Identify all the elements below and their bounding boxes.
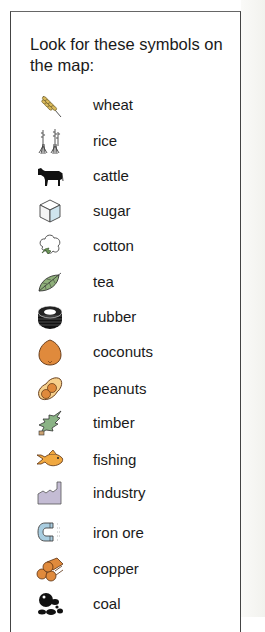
- fish-icon: [35, 445, 65, 475]
- cattle-icon: [35, 161, 65, 191]
- legend-label: wheat: [93, 96, 133, 113]
- legend-item-fishing: fishing: [11, 445, 240, 475]
- copper-logs-icon: [35, 554, 65, 584]
- legend-label: cotton: [93, 237, 134, 254]
- legend-item-rice: rice: [11, 126, 240, 156]
- legend-label: cattle: [93, 167, 129, 184]
- legend-item-peanuts: peanuts: [11, 374, 240, 404]
- legend-item-cattle: cattle: [11, 161, 240, 191]
- rice-icon: [35, 126, 65, 156]
- legend-label: industry: [93, 484, 146, 501]
- legend-label: sugar: [93, 202, 131, 219]
- tea-leaf-icon: [35, 267, 65, 297]
- magnet-icon: [35, 518, 65, 548]
- peanut-icon: [35, 374, 65, 404]
- coconut-icon: [35, 337, 65, 367]
- legend-label: fishing: [93, 451, 136, 468]
- wheat-icon: [35, 90, 65, 120]
- legend-item-rubber: rubber: [11, 302, 240, 332]
- factory-icon: [35, 478, 65, 508]
- legend-label: timber: [93, 414, 135, 431]
- legend-item-tea: tea: [11, 267, 240, 297]
- tire-icon: [35, 302, 65, 332]
- legend-item-iron-ore: iron ore: [11, 518, 240, 548]
- sugar-cube-icon: [35, 196, 65, 226]
- legend-item-coconuts: coconuts: [11, 337, 240, 367]
- legend-item-copper: copper: [11, 554, 240, 584]
- legend-label: coal: [93, 595, 121, 612]
- legend-item-cotton: cotton: [11, 231, 240, 261]
- legend-label: coconuts: [93, 343, 153, 360]
- legend-label: rice: [93, 132, 117, 149]
- page-margin: [241, 0, 265, 617]
- legend-label: copper: [93, 560, 139, 577]
- legend-label: tea: [93, 273, 114, 290]
- legend-label: rubber: [93, 308, 136, 325]
- legend-item-sugar: sugar: [11, 196, 240, 226]
- legend-item-wheat: wheat: [11, 90, 240, 120]
- map-legend: Look for these symbols on the map: wheat: [10, 11, 241, 632]
- coal-lumps-icon: [35, 589, 65, 619]
- tree-icon: [35, 408, 65, 438]
- legend-item-industry: industry: [11, 478, 240, 508]
- legend-label: peanuts: [93, 380, 146, 397]
- legend-title: Look for these symbols on the map:: [30, 34, 245, 76]
- legend-label: iron ore: [93, 524, 144, 541]
- cotton-icon: [35, 231, 65, 261]
- legend-item-coal: coal: [11, 589, 240, 619]
- legend-item-timber: timber: [11, 408, 240, 438]
